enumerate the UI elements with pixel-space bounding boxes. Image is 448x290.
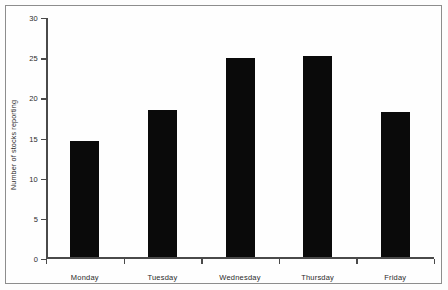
bar	[226, 58, 255, 257]
y-axis-tick	[41, 219, 46, 220]
y-axis-tick	[41, 139, 46, 140]
bar-series	[46, 18, 434, 259]
y-axis-tick-label: 15	[29, 134, 38, 143]
x-axis-tick-label: Monday	[71, 273, 99, 282]
x-axis-tick-label: Thursday	[301, 273, 334, 282]
y-axis-tick	[41, 98, 46, 99]
bar	[148, 110, 177, 257]
bar	[303, 56, 332, 258]
plot-area: 051015202530	[46, 18, 434, 259]
y-axis-tick-label: 5	[34, 214, 38, 223]
chart-figure: Number of stocks reporting 051015202530 …	[0, 0, 448, 290]
x-axis-tick	[356, 259, 357, 264]
bar	[381, 112, 410, 257]
x-axis-tick	[46, 259, 47, 264]
y-axis-tick	[41, 58, 46, 59]
x-axis-tick-label: Tuesday	[147, 273, 177, 282]
x-axis-tick	[434, 259, 435, 264]
y-axis-tick	[41, 18, 46, 19]
y-axis-tick	[41, 179, 46, 180]
x-axis-tick	[124, 259, 125, 264]
y-axis-tick-label: 30	[29, 14, 38, 23]
x-axis-tick	[279, 259, 280, 264]
x-axis-tick	[201, 259, 202, 264]
x-axis-tick-label: Friday	[384, 273, 406, 282]
bar	[70, 141, 99, 257]
y-axis-tick-label: 25	[29, 54, 38, 63]
y-axis-tick-label: 20	[29, 94, 38, 103]
y-axis-tick-label: 0	[34, 255, 38, 264]
y-axis-title: Number of stocks reporting	[9, 100, 18, 190]
x-axis-tick-label: Wednesday	[219, 273, 260, 282]
y-axis-tick-label: 10	[29, 174, 38, 183]
